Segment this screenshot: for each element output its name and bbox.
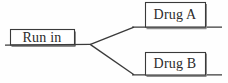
drug-b-label: Drug B [145, 52, 205, 75]
randomization-flow-diagram: Run in Drug A Drug B [0, 0, 228, 83]
edge-to-drug-a [91, 27, 135, 44]
run-in-label: Run in [10, 30, 74, 45]
drug-a-label: Drug A [145, 3, 205, 27]
edge-to-drug-b [91, 45, 135, 75]
